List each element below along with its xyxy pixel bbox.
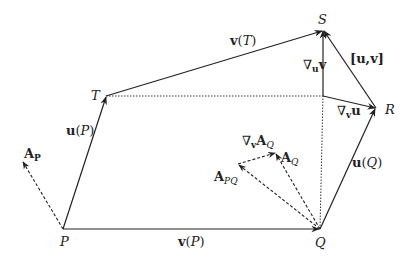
- vector-u-P: [63, 97, 106, 229]
- label-A-PQ: APQ: [213, 169, 238, 186]
- label-v-P: v(P): [177, 234, 204, 249]
- vector-A-P: [23, 162, 63, 229]
- diagram-svg: P Q T S R u(P) v(P) v(T) u(Q) ∇uv ∇vu [u…: [0, 0, 406, 257]
- label-nabla-u-v: ∇uv: [303, 57, 327, 74]
- dotted-line-Q-to-corner: [320, 96, 323, 229]
- label-point-T: T: [91, 88, 101, 103]
- vector-A-PQ: [239, 165, 320, 229]
- vector-nabla-v-A-Q: [238, 153, 275, 164]
- label-A-Q: AQ: [280, 150, 299, 167]
- label-u-Q: u(Q): [352, 155, 382, 170]
- label-nabla-v-A-Q: ∇vAQ: [242, 133, 274, 150]
- label-point-R: R: [384, 102, 395, 117]
- vector-nabla-v-u: [323, 96, 375, 108]
- parallelogram-diagram: P Q T S R u(P) v(P) v(T) u(Q) ∇uv ∇vu [u…: [0, 0, 406, 257]
- label-u-P: u(P): [66, 123, 94, 138]
- label-point-P: P: [59, 234, 69, 249]
- label-v-T: v(T): [229, 33, 256, 48]
- vector-v-T: [106, 31, 322, 96]
- label-A-P: AP: [23, 146, 41, 163]
- label-lie-bracket: [u,v]: [350, 51, 384, 66]
- vector-lie-bracket: [324, 31, 376, 108]
- label-point-Q: Q: [315, 235, 326, 250]
- label-point-S: S: [318, 12, 327, 27]
- label-nabla-v-u: ∇vu: [337, 103, 361, 120]
